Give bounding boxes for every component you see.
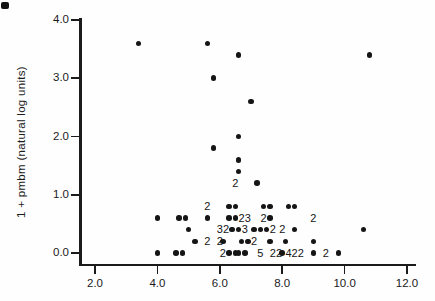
data-point (211, 145, 217, 151)
overlap-count-label: 2 (199, 200, 215, 213)
data-point (283, 239, 289, 245)
data-point (180, 250, 186, 256)
data-point (254, 180, 260, 186)
y-tick (71, 19, 79, 21)
data-point (242, 250, 248, 256)
data-point (236, 250, 242, 256)
overlap-count-label: 2 (215, 247, 231, 260)
data-point (236, 52, 242, 58)
data-point (192, 239, 198, 245)
y-tick-label: 4.0 (41, 13, 69, 25)
data-point (205, 215, 211, 221)
x-tick-label: 10.0 (328, 277, 362, 289)
x-axis-line (79, 264, 416, 266)
data-point (267, 239, 273, 245)
data-point (226, 215, 232, 221)
data-point (236, 157, 242, 163)
x-tick-label: 2.0 (78, 277, 112, 289)
data-point (183, 215, 189, 221)
data-point (136, 41, 142, 47)
data-point (176, 215, 182, 221)
data-point (311, 239, 317, 245)
x-tick (157, 266, 159, 274)
y-axis-title: 1 + pmbm (natural log units) (15, 66, 27, 218)
y-tick (71, 136, 79, 138)
y-tick (71, 194, 79, 196)
data-point (173, 250, 179, 256)
data-point (239, 239, 245, 245)
scatter-plot-figure: 1 + pmbm (natural log units) 0.01.02.03.… (0, 0, 435, 301)
data-point (226, 204, 232, 210)
data-point (367, 52, 373, 58)
y-tick-label: 3.0 (41, 71, 69, 83)
y-tick-label: 1.0 (41, 188, 69, 200)
data-point (155, 215, 161, 221)
data-point (236, 169, 242, 175)
overlap-count-label: 2 (293, 247, 309, 260)
overlap-count-label: 2 (318, 247, 334, 260)
y-tick (71, 77, 79, 79)
data-point (248, 99, 254, 105)
y-tick-label: 0.0 (41, 246, 69, 258)
data-point (311, 250, 317, 256)
y-tick (71, 252, 79, 254)
data-point (258, 227, 264, 233)
x-tick (219, 266, 221, 274)
x-tick (281, 266, 283, 274)
overlap-count-label: 2 (274, 223, 290, 236)
x-tick-label: 12.0 (390, 277, 424, 289)
x-tick-label: 6.0 (203, 277, 237, 289)
data-point (361, 227, 367, 233)
data-point (292, 204, 298, 210)
x-tick (344, 266, 346, 274)
data-point (286, 204, 292, 210)
overlap-count-label: 2 (227, 177, 243, 190)
data-point (155, 250, 161, 256)
x-tick-label: 4.0 (140, 277, 174, 289)
data-point (267, 204, 273, 210)
scan-ink-artifact (1, 2, 9, 9)
y-axis-line (79, 18, 82, 266)
data-point (336, 250, 342, 256)
y-tick-label: 2.0 (41, 130, 69, 142)
overlap-count-label: 2 (305, 212, 321, 225)
data-point (236, 134, 242, 140)
data-point (261, 204, 267, 210)
data-point (186, 227, 192, 233)
x-tick (406, 266, 408, 274)
data-point (205, 41, 211, 47)
x-tick (94, 266, 96, 274)
data-point (292, 227, 298, 233)
x-tick-label: 8.0 (265, 277, 299, 289)
data-point (233, 204, 239, 210)
data-point (211, 75, 217, 81)
